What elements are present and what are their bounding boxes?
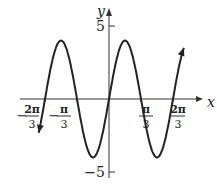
sine-graph: xy5−5−2π3−π3π32π3 [0,0,217,187]
y-axis-label: y [96,3,106,19]
plot-area: xy5−5−2π3−π3π32π3 [0,0,217,187]
svg-text:3: 3 [60,118,67,131]
y-tick-label: 5 [96,18,105,34]
svg-text:π: π [60,103,68,116]
svg-text:2π: 2π [24,103,40,116]
svg-text:2π: 2π [170,103,186,116]
svg-text:3: 3 [175,118,182,131]
svg-text:3: 3 [143,118,150,131]
x-axis-label: x [207,94,215,110]
y-tick-label: −5 [84,164,105,180]
svg-text:3: 3 [28,118,35,131]
svg-text:π: π [142,103,150,116]
axes [20,8,203,178]
